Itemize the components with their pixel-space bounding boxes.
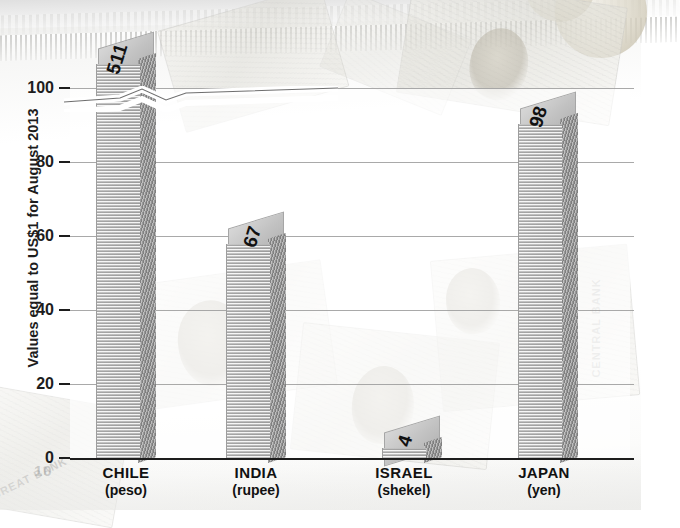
bar-india: 67: [226, 220, 284, 460]
y-tick-60: [59, 235, 70, 237]
y-tick-0: [59, 457, 70, 459]
category-name-israel: ISRAEL: [334, 464, 474, 481]
coin-band: [0, 0, 641, 28]
y-axis-label: Values equal to US$1 for August 2013: [25, 73, 41, 403]
bar-japan-front: [518, 124, 562, 460]
bar-india-front: [226, 244, 270, 460]
y-tick-100: [59, 87, 70, 89]
bar-chile-side: [138, 53, 156, 463]
y-tick-40: [59, 309, 70, 311]
x-axis-line: [70, 458, 634, 460]
bar-japan: 98: [518, 100, 576, 460]
coin-edge-upper: [0, 0, 680, 36]
category-label-india: INDIA (rupee): [186, 464, 326, 498]
y-tick-label-0: 0: [0, 449, 54, 467]
category-currency-japan: (yen): [474, 482, 614, 498]
category-label-chile: CHILE (peso): [56, 464, 196, 498]
coin-icon: [555, 0, 647, 58]
category-name-india: INDIA: [186, 464, 326, 481]
bar-israel: 4: [382, 424, 440, 460]
bar-india-side: [268, 233, 286, 463]
category-name-japan: JAPAN: [474, 464, 614, 481]
category-label-japan: JAPAN (yen): [474, 464, 614, 498]
y-tick-20: [59, 383, 70, 385]
category-name-chile: CHILE: [56, 464, 196, 481]
coin-icon-secondary: [525, 0, 595, 22]
category-label-israel: ISRAEL (shekel): [334, 464, 474, 498]
category-currency-israel: (shekel): [334, 482, 474, 498]
category-currency-india: (rupee): [186, 482, 326, 498]
category-currency-chile: (peso): [56, 482, 196, 498]
bar-japan-side: [560, 113, 578, 463]
y-tick-80: [59, 161, 70, 163]
bar-chile-front: [96, 64, 140, 460]
axis-break-marker: [62, 86, 338, 112]
